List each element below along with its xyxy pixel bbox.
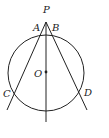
center-dot — [45, 71, 48, 74]
line-pc — [7, 22, 46, 110]
label-d: D — [83, 87, 92, 98]
label-c: C — [3, 88, 11, 99]
label-o: O — [34, 68, 42, 79]
line-pd — [46, 22, 87, 110]
label-p: P — [42, 4, 50, 15]
label-b: B — [51, 22, 59, 33]
geometry-diagram: P A B O C D — [0, 0, 109, 138]
label-a: A — [32, 22, 40, 33]
